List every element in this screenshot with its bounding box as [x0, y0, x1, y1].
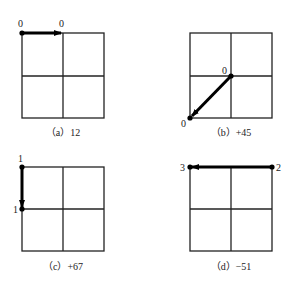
- end-dot-c: [19, 206, 24, 211]
- panel-d: 2 3 （d）−51: [180, 162, 281, 272]
- start-dot-d: [269, 164, 274, 169]
- end-dot-d: [187, 164, 192, 169]
- grid-a: [22, 33, 104, 118]
- label-a-start: 0: [18, 18, 23, 29]
- start-dot-c: [19, 164, 24, 169]
- grid-c: [22, 167, 104, 251]
- label-a-end: 0: [59, 18, 64, 29]
- label-b-start: 0: [222, 65, 227, 76]
- label-b-end: 0: [181, 118, 186, 129]
- panel-b: 0 0 （b）+45: [181, 33, 272, 138]
- label-c-end: 1: [13, 204, 18, 215]
- caption-d: （d）−51: [211, 261, 252, 272]
- start-dot-b: [228, 73, 233, 78]
- end-dot-b: [187, 115, 192, 120]
- grid-d: [190, 167, 272, 251]
- label-d-start: 2: [276, 162, 281, 173]
- label-d-end: 3: [180, 162, 185, 173]
- caption-a: （a）12: [46, 127, 80, 138]
- start-dot-a: [19, 30, 24, 35]
- caption-b: （b）+45: [211, 127, 252, 138]
- label-c-start: 1: [18, 153, 23, 164]
- chain-code-diagram: 0 0 （a）12 0 0 （b）+45 1 1 （c）+67: [0, 0, 296, 284]
- panel-a: 0 0 （a）12: [18, 18, 104, 138]
- panel-c: 1 1 （c）+67: [13, 153, 104, 272]
- caption-c: （c）+67: [43, 261, 83, 272]
- arrow-b: [192, 76, 231, 116]
